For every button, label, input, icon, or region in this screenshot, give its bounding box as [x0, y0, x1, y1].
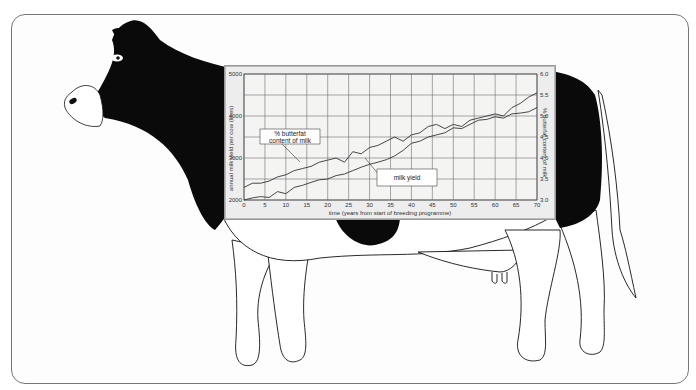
- svg-text:60: 60: [492, 202, 499, 208]
- svg-text:50: 50: [450, 202, 457, 208]
- svg-text:45: 45: [429, 202, 436, 208]
- svg-text:5000: 5000: [229, 71, 243, 77]
- svg-text:0: 0: [242, 202, 246, 208]
- eye-icon: [111, 55, 123, 62]
- svg-text:25: 25: [345, 202, 352, 208]
- svg-text:70: 70: [534, 202, 541, 208]
- svg-text:2000: 2000: [229, 197, 243, 203]
- milk-yield-annotation: milk yield: [377, 169, 437, 186]
- x-axis-label: time (years from start of breeding progr…: [329, 210, 452, 216]
- x-axis: 0510152025303540455055606570: [242, 202, 541, 208]
- y-axis-label: annual milk yield per cow (litres): [228, 106, 234, 191]
- svg-text:55: 55: [471, 202, 478, 208]
- y-axis-right-label: % butterfat content of milk: [542, 108, 548, 178]
- svg-text:content of milk: content of milk: [269, 137, 312, 144]
- muzzle: [64, 86, 103, 127]
- svg-text:5: 5: [263, 202, 267, 208]
- svg-text:40: 40: [408, 202, 415, 208]
- svg-text:milk yield: milk yield: [394, 174, 421, 182]
- svg-text:65: 65: [513, 202, 520, 208]
- line-chart: 2000300040005000 3.03.54.04.55.05.56.0 0…: [225, 66, 555, 219]
- svg-text:35: 35: [387, 202, 394, 208]
- svg-text:10: 10: [283, 202, 290, 208]
- svg-text:20: 20: [324, 202, 331, 208]
- butterfat-annotation: % butterfat content of milk: [260, 129, 320, 144]
- svg-text:30: 30: [366, 202, 373, 208]
- svg-text:5.5: 5.5: [540, 92, 549, 98]
- svg-text:6.0: 6.0: [540, 71, 549, 77]
- svg-text:15: 15: [303, 202, 310, 208]
- svg-text:3.0: 3.0: [540, 197, 549, 203]
